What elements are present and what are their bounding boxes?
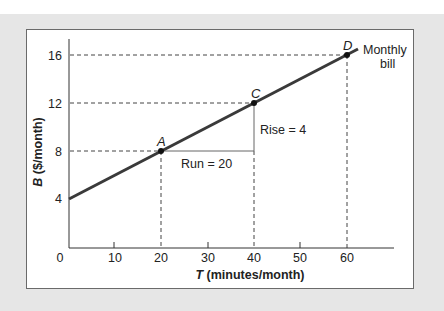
y-tick-label-8: 8 (55, 145, 62, 159)
x-tick-label-0: 0 (57, 251, 64, 265)
series-label-line2: bill (380, 57, 395, 71)
y-tick-label-12: 12 (48, 97, 62, 111)
x-axis-unit: (minutes/month) (207, 268, 305, 282)
point-a-label: A (156, 134, 166, 149)
run-annotation: Run = 20 (181, 157, 232, 171)
y-tick-label-16: 16 (48, 49, 62, 63)
x-axis-var: T (195, 268, 204, 282)
series-label-line1: Monthly (363, 43, 408, 57)
x-tick-label-50: 50 (293, 251, 307, 265)
y-axis-unit: ($/month) (31, 117, 45, 174)
y-tick-label-4: 4 (55, 192, 62, 206)
y-axis-title: B ($/month) (31, 117, 45, 186)
point-d-label: D (343, 38, 352, 53)
x-tick-label-20: 20 (154, 251, 168, 265)
x-tick-label-10: 10 (108, 251, 122, 265)
x-axis-title: T (minutes/month) (195, 268, 304, 282)
monthly-bill-line (69, 49, 358, 199)
x-tick-label-60: 60 (340, 251, 354, 265)
chart: A C D Monthly bill Run = 20 Rise = 4 16 … (0, 0, 444, 311)
y-axis-var: B (31, 178, 45, 187)
point-c-label: C (251, 86, 261, 101)
axes (69, 39, 394, 248)
x-tick-label-30: 30 (201, 251, 215, 265)
rise-annotation: Rise = 4 (260, 123, 306, 137)
x-tick-label-40: 40 (247, 251, 261, 265)
